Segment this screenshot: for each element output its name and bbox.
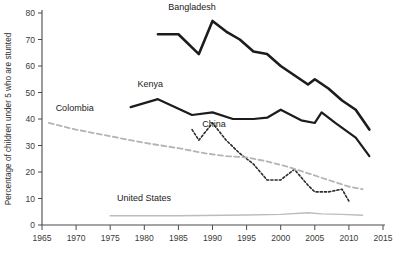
y-tick-label: 20 (26, 167, 36, 177)
x-tick-label: 2010 (339, 233, 358, 243)
series-label-united-states: United States (117, 193, 172, 203)
series-label-bangladesh: Bangladesh (168, 2, 216, 12)
x-tick-label: 1990 (203, 233, 222, 243)
x-tick-label: 1965 (33, 233, 52, 243)
series-line-colombia (49, 123, 363, 189)
y-tick-label: 70 (26, 35, 36, 45)
series-labels: BangladeshKenyaChinaColombiaUnited State… (56, 2, 226, 203)
y-tick-label: 50 (26, 88, 36, 98)
y-axis-title-text: Percentage of children under 5 who are s… (4, 32, 13, 205)
series-label-colombia: Colombia (56, 103, 94, 113)
x-tick-label: 1970 (67, 233, 86, 243)
y-tick-label: 0 (30, 220, 35, 230)
chart-svg: Percentage of children under 5 who are s… (0, 0, 409, 257)
y-tick-label: 60 (26, 61, 36, 71)
x-tick-label: 2015 (374, 233, 393, 243)
series-line-united-states (110, 213, 362, 216)
stunting-line-chart: Percentage of children under 5 who are s… (0, 0, 409, 257)
y-tick-label: 40 (26, 114, 36, 124)
y-tick-label: 10 (26, 194, 36, 204)
x-tick-label: 1975 (101, 233, 120, 243)
x-tick-label: 1985 (169, 233, 188, 243)
y-axis-title: Percentage of children under 5 who are s… (4, 32, 13, 205)
y-tick-label: 30 (26, 141, 36, 151)
series-label-kenya: Kenya (137, 79, 163, 89)
y-tick-label: 80 (26, 8, 36, 18)
series-label-china: China (202, 119, 226, 129)
x-tick-label: 2000 (271, 233, 290, 243)
x-axis: 1965197019751980198519901995200020052010… (33, 225, 393, 243)
y-axis: 01020304050607080 (26, 8, 42, 230)
series-line-kenya (131, 99, 370, 156)
x-tick-label: 1980 (135, 233, 154, 243)
x-tick-label: 2005 (305, 233, 324, 243)
x-tick-label: 1995 (237, 233, 256, 243)
